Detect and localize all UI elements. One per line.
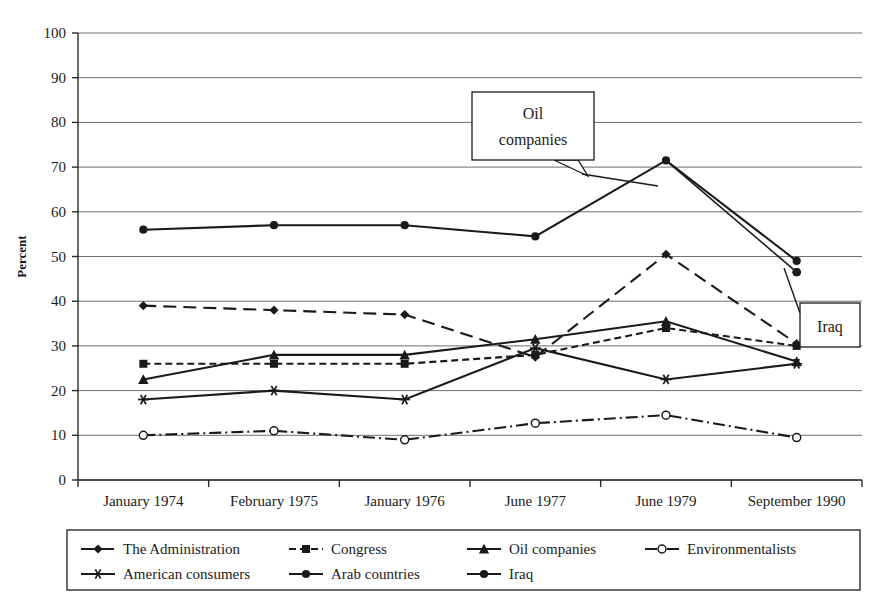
marker-filled-circle bbox=[302, 570, 310, 578]
marker-open-circle bbox=[793, 434, 801, 442]
series-line bbox=[143, 254, 796, 357]
marker-star bbox=[269, 386, 280, 395]
marker-diamond bbox=[269, 306, 278, 315]
marker-diamond bbox=[400, 310, 409, 319]
y-tick-label: 100 bbox=[44, 25, 67, 41]
marker-filled-circle bbox=[793, 257, 801, 265]
marker-filled-circle bbox=[531, 232, 539, 240]
y-tick-label: 10 bbox=[51, 427, 66, 443]
callout-label-line2: companies bbox=[499, 131, 567, 149]
y-tick-label: 60 bbox=[51, 204, 66, 220]
legend-label: Environmentalists bbox=[687, 541, 796, 557]
marker-open-circle bbox=[662, 411, 670, 419]
y-tick-label: 0 bbox=[59, 472, 67, 488]
marker-square bbox=[270, 360, 278, 368]
y-axis-title: Percent bbox=[14, 235, 29, 278]
y-tick-label: 20 bbox=[51, 383, 66, 399]
x-tick-label: January 1976 bbox=[364, 493, 445, 509]
y-tick-label: 40 bbox=[51, 293, 66, 309]
y-tick-label: 70 bbox=[51, 159, 66, 175]
marker-filled-circle bbox=[480, 570, 488, 578]
marker-square bbox=[139, 360, 147, 368]
legend: The AdministrationCongressOil companiesE… bbox=[67, 530, 860, 590]
series-american-consumers bbox=[138, 343, 802, 404]
legend-label: Arab countries bbox=[331, 566, 420, 582]
legend-label: American consumers bbox=[123, 566, 250, 582]
marker-star bbox=[138, 395, 149, 404]
iraq-connector-line bbox=[666, 160, 797, 272]
legend-label: The Administration bbox=[123, 541, 241, 557]
marker-open-circle bbox=[658, 545, 666, 553]
marker-square bbox=[401, 360, 409, 368]
y-tick-label: 30 bbox=[51, 338, 66, 354]
y-tick-label: 80 bbox=[51, 114, 66, 130]
chart-container: 0102030405060708090100PercentJanuary 197… bbox=[0, 0, 877, 610]
callout-label-line1: Oil bbox=[523, 105, 544, 122]
series-the-administration bbox=[139, 250, 802, 362]
series-line bbox=[143, 415, 796, 440]
line-chart: 0102030405060708090100PercentJanuary 197… bbox=[0, 0, 877, 610]
callout-label-line1: Iraq bbox=[817, 318, 843, 336]
marker-star bbox=[661, 375, 672, 384]
series-iraq-connector bbox=[666, 160, 801, 276]
x-axis-labels: January 1974February 1975January 1976Jun… bbox=[78, 480, 862, 509]
marker-filled-circle bbox=[401, 221, 409, 229]
annotation-iraq: Iraq bbox=[784, 268, 860, 347]
legend-label: Oil companies bbox=[509, 541, 596, 557]
marker-filled-circle bbox=[270, 221, 278, 229]
x-tick-label: February 1975 bbox=[230, 493, 318, 509]
x-tick-label: June 1979 bbox=[635, 493, 696, 509]
marker-diamond bbox=[139, 301, 148, 310]
marker-star bbox=[399, 395, 410, 404]
x-tick-label: January 1974 bbox=[103, 493, 184, 509]
legend-label: Congress bbox=[331, 541, 387, 557]
marker-open-circle bbox=[401, 436, 409, 444]
legend-label: Iraq bbox=[509, 566, 534, 582]
marker-open-circle bbox=[270, 427, 278, 435]
y-tick-label: 50 bbox=[51, 249, 66, 265]
series-line bbox=[143, 348, 796, 399]
marker-filled-circle bbox=[139, 226, 147, 234]
callout-leader-line bbox=[582, 174, 658, 186]
x-tick-label: September 1990 bbox=[748, 493, 846, 509]
series-line bbox=[143, 321, 796, 379]
y-tick-label: 90 bbox=[51, 70, 66, 86]
marker-open-circle bbox=[531, 419, 539, 427]
series-line bbox=[143, 160, 796, 261]
gridlines: 0102030405060708090100 bbox=[44, 25, 863, 488]
annotation-oil-companies: Oilcompanies bbox=[472, 92, 658, 186]
marker-filled-circle bbox=[793, 268, 801, 276]
series-layer bbox=[138, 156, 802, 443]
series-arab-countries bbox=[139, 156, 801, 265]
x-tick-label: June 1977 bbox=[505, 493, 567, 509]
callout-box bbox=[472, 92, 594, 160]
series-environmentalists bbox=[139, 411, 800, 444]
marker-square bbox=[302, 545, 310, 553]
marker-open-circle bbox=[139, 431, 147, 439]
